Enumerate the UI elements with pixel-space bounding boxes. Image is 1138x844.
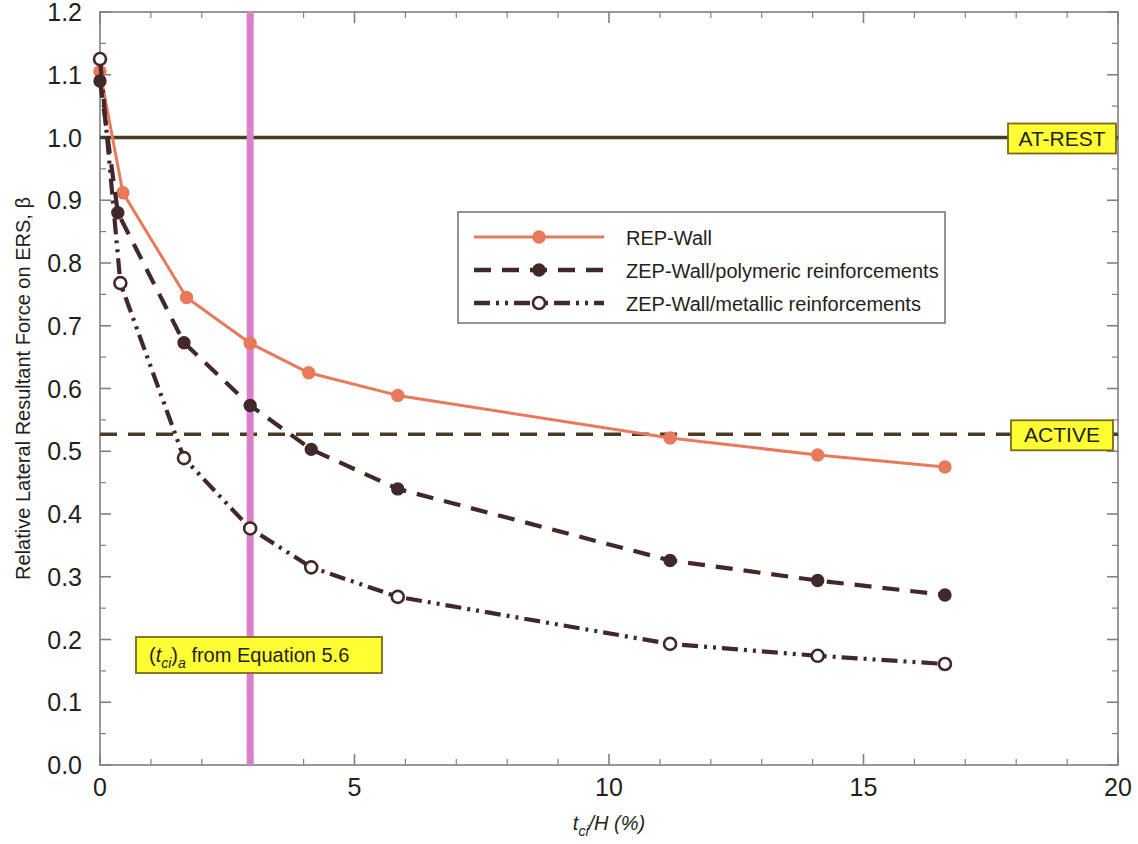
active-badge: ACTIVE <box>1011 420 1113 450</box>
legend-swatch-marker <box>533 264 545 276</box>
at-rest-badge: AT-REST <box>1008 124 1116 154</box>
data-point <box>812 650 824 662</box>
data-point <box>94 75 106 87</box>
data-point <box>178 452 190 464</box>
y-tick-label: 0.8 <box>47 249 82 277</box>
data-point <box>664 638 676 650</box>
x-tick-labels: 05101520 <box>93 773 1132 801</box>
y-tick-label: 0.1 <box>47 688 82 716</box>
anno-sub2: a <box>178 655 186 671</box>
y-tick-labels: 0.00.10.20.30.40.50.60.70.80.91.01.11.2 <box>47 0 82 779</box>
y-tick-label: 1.2 <box>47 0 82 26</box>
equation-annotation: (tci)a from Equation 5.6 <box>136 637 382 673</box>
data-point <box>664 432 676 444</box>
y-tick-label: 0.3 <box>47 563 82 591</box>
y-tick-label: 0.4 <box>47 500 82 528</box>
legend-swatch-marker <box>533 297 545 309</box>
data-point <box>392 483 404 495</box>
relative-lateral-force-chart: 0.00.10.20.30.40.50.60.70.80.91.01.11.20… <box>0 0 1138 844</box>
x-tick-label: 0 <box>93 773 107 801</box>
data-point <box>244 522 256 534</box>
y-tick-label: 0.7 <box>47 312 82 340</box>
active-badge-label: ACTIVE <box>1024 423 1100 446</box>
data-point <box>114 277 126 289</box>
data-point <box>117 187 129 199</box>
data-point <box>392 591 404 603</box>
legend-label: ZEP-Wall/metallic reinforcements <box>626 293 921 315</box>
anno-close: ) <box>171 644 178 666</box>
legend-label: REP-Wall <box>626 227 712 249</box>
data-point <box>939 589 951 601</box>
data-point <box>181 292 193 304</box>
y-tick-label: 0.5 <box>47 437 82 465</box>
data-point <box>939 658 951 670</box>
x-tick-label: 5 <box>348 773 362 801</box>
data-point <box>812 575 824 587</box>
x-tick-label: 20 <box>1104 773 1132 801</box>
data-point <box>244 399 256 411</box>
x-tick-label: 10 <box>595 773 623 801</box>
y-tick-label: 0.2 <box>47 626 82 654</box>
x-tick-label: 15 <box>850 773 878 801</box>
data-point <box>392 389 404 401</box>
legend-label: ZEP-Wall/polymeric reinforcements <box>626 260 939 282</box>
x-axis-title: tci/H (%) <box>573 812 645 839</box>
data-point <box>305 443 317 455</box>
anno-rest: from Equation 5.6 <box>186 644 349 666</box>
data-point <box>303 367 315 379</box>
data-point <box>244 337 256 349</box>
x-axis-title-rest: /H (%) <box>587 812 646 834</box>
data-point <box>112 207 124 219</box>
data-point <box>305 561 317 573</box>
data-point <box>939 461 951 473</box>
chart-legend: REP-WallZEP-Wall/polymeric reinforcement… <box>458 212 945 323</box>
y-tick-label: 0.6 <box>47 375 82 403</box>
data-point <box>664 554 676 566</box>
y-tick-label: 0.0 <box>47 751 82 779</box>
y-tick-label: 1.0 <box>47 124 82 152</box>
y-tick-label: 0.9 <box>47 186 82 214</box>
data-point <box>812 449 824 461</box>
y-axis-title: Relative Lateral Resultant Force on ERS,… <box>12 197 34 580</box>
data-point <box>178 337 190 349</box>
chart-canvas: 0.00.10.20.30.40.50.60.70.80.91.01.11.20… <box>0 0 1138 844</box>
at-rest-badge-label: AT-REST <box>1018 127 1105 150</box>
y-tick-label: 1.1 <box>47 61 82 89</box>
data-point <box>94 53 106 65</box>
legend-swatch-marker <box>533 231 545 243</box>
